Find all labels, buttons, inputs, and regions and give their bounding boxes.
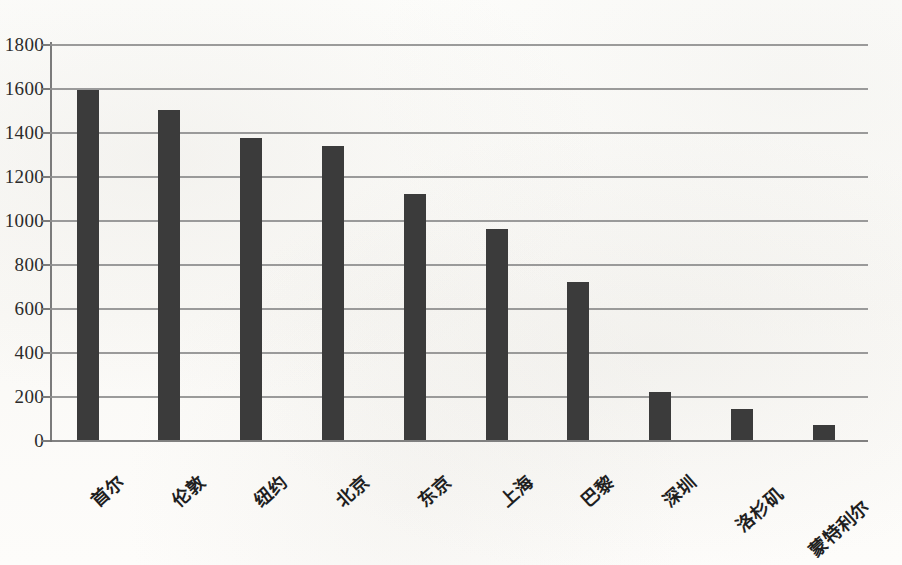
- y-tick-label-600: 600: [0, 299, 44, 318]
- y-tick-mark-1000: [41, 220, 50, 222]
- chart-page: 020040060080010001200140016001800 首尔伦敦纽约…: [0, 0, 902, 565]
- y-tick-label-1000: 1000: [0, 211, 44, 230]
- x-axis-tick-labels: 首尔伦敦纽约北京东京上海巴黎深圳洛杉矶蒙特利尔: [50, 443, 868, 563]
- bar-伦敦: [158, 110, 180, 440]
- gridline-1600: [50, 88, 868, 90]
- x-tick-label-巴黎: 巴黎: [574, 468, 619, 512]
- y-tick-mark-600: [41, 308, 50, 310]
- y-tick-label-1200: 1200: [0, 167, 44, 186]
- y-axis-tick-labels: 020040060080010001200140016001800: [0, 0, 44, 565]
- x-tick-label-蒙特利尔: 蒙特利尔: [802, 493, 874, 562]
- gridline-0: [50, 440, 868, 442]
- bar-蒙特利尔: [813, 425, 835, 440]
- y-tick-label-1400: 1400: [0, 123, 44, 142]
- bar-深圳: [649, 392, 671, 440]
- bar-上海: [486, 229, 508, 440]
- y-tick-mark-1400: [41, 132, 50, 134]
- plot-area: [50, 44, 868, 440]
- bar-首尔: [77, 90, 99, 440]
- bar-纽约: [240, 138, 262, 441]
- y-tick-label-0: 0: [0, 431, 44, 450]
- y-tick-label-800: 800: [0, 255, 44, 274]
- y-tick-label-200: 200: [0, 387, 44, 406]
- y-tick-label-1800: 1800: [0, 35, 44, 54]
- y-tick-mark-1800: [41, 44, 50, 46]
- y-tick-mark-400: [41, 352, 50, 354]
- y-tick-mark-1600: [41, 88, 50, 90]
- x-tick-label-纽约: 纽约: [247, 468, 292, 512]
- bar-东京: [404, 194, 426, 440]
- bar-北京: [322, 146, 344, 440]
- y-tick-mark-200: [41, 396, 50, 398]
- x-tick-label-伦敦: 伦敦: [165, 468, 210, 512]
- x-tick-label-深圳: 深圳: [656, 468, 701, 512]
- x-tick-label-东京: 东京: [411, 468, 456, 512]
- y-tick-mark-0: [41, 440, 50, 442]
- gridline-1800: [50, 44, 868, 46]
- bar-洛杉矶: [731, 409, 753, 440]
- y-tick-mark-1200: [41, 176, 50, 178]
- y-tick-label-400: 400: [0, 343, 44, 362]
- x-tick-label-洛杉矶: 洛杉矶: [729, 480, 788, 536]
- y-tick-label-1600: 1600: [0, 79, 44, 98]
- x-tick-label-北京: 北京: [329, 468, 374, 512]
- x-tick-label-上海: 上海: [493, 468, 538, 512]
- y-tick-mark-800: [41, 264, 50, 266]
- bar-巴黎: [567, 282, 589, 440]
- x-tick-label-首尔: 首尔: [84, 468, 129, 512]
